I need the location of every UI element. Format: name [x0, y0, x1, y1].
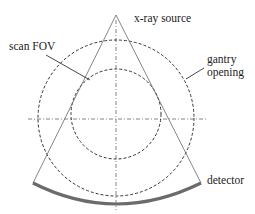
scan-fov-leader: [46, 55, 90, 80]
detector-label: detector: [207, 174, 244, 186]
fan-beam-right-edge: [116, 15, 201, 183]
detector-arc: [33, 183, 201, 204]
ct-geometry-diagram: x-ray source scan FOV gantry opening det…: [0, 0, 255, 214]
scan-fov-label: scan FOV: [9, 40, 56, 52]
gantry-label-line1: gantry: [207, 53, 237, 66]
x-ray-source-label: x-ray source: [134, 12, 191, 25]
gantry-opening-leader: [186, 68, 204, 79]
gantry-label-line2: opening: [207, 66, 244, 79]
